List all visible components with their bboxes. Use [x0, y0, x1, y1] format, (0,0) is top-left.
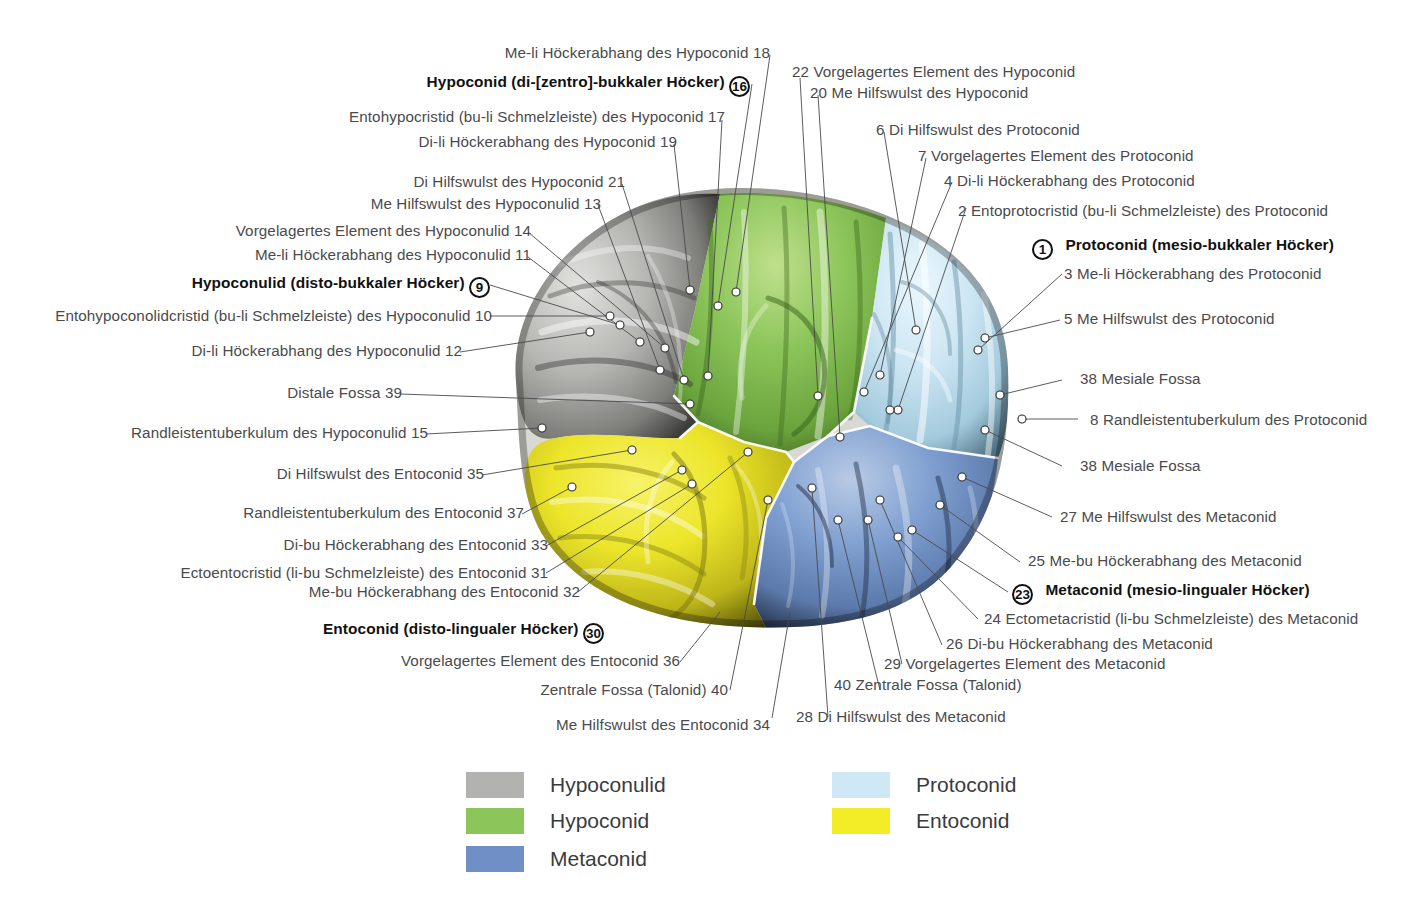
- label-37-text: Randleistentuberkulum des Entoconid: [243, 504, 502, 521]
- label-3: 3 Me-li Höckerabhang des Protoconid: [1064, 265, 1322, 282]
- label-25-num: 25: [1028, 552, 1045, 569]
- label-17-text: Entohypocristid (bu-li Schmelzleiste) de…: [349, 108, 704, 125]
- label-7-text: Vorgelagertes Element des Protoconid: [931, 147, 1194, 164]
- label-19-num: 19: [660, 133, 677, 150]
- label-22-text: Vorgelagertes Element des Hypoconid: [813, 63, 1075, 80]
- label-2-text: Entoprotocristid (bu-li Schmelzleiste) d…: [971, 202, 1328, 219]
- label-32-text: Me-bu Höckerabhang des Entoconid: [309, 583, 559, 600]
- legend-swatch-metaconid: [466, 846, 524, 872]
- legend: Hypoconulid Hypoconid Metaconid Protocon…: [466, 770, 1086, 880]
- label-26-text: Di-bu Höckerabhang des Metaconid: [967, 635, 1213, 652]
- label-38-a: 38 Mesiale Fossa: [1080, 370, 1201, 387]
- label-33: Di-bu Höckerabhang des Entoconid 33: [0, 536, 548, 553]
- label-22-num: 22: [792, 63, 809, 80]
- label-1: 1 Protoconid (mesio-bukkaler Höcker): [1032, 236, 1334, 260]
- tooth-occlusal-illustration: [498, 186, 1014, 634]
- label-40-left-text: Zentrale Fossa (Talonid): [540, 681, 706, 698]
- label-40-right-num: 40: [834, 676, 851, 693]
- label-28: 28 Di Hilfswulst des Metaconid: [796, 708, 1006, 725]
- label-24-num: 24: [984, 610, 1001, 627]
- label-31-text: Ectoentocristid (li-bu Schmelzleiste) de…: [180, 564, 526, 581]
- label-24: 24 Ectometacristid (li-bu Schmelzleiste)…: [984, 610, 1358, 627]
- label-2: 2 Entoprotocristid (bu-li Schmelzleiste)…: [958, 202, 1328, 219]
- label-15-num: 15: [411, 424, 428, 441]
- label-30-text: Entoconid (disto-lingualer Höcker): [323, 620, 579, 637]
- label-36-num: 36: [663, 652, 680, 669]
- legend-swatch-hypoconid: [466, 808, 524, 834]
- label-11-text: Me-li Höckerabhang des Hypoconulid: [255, 246, 511, 263]
- label-40-right: 40 Zentrale Fossa (Talonid): [834, 676, 1022, 693]
- label-29: 29 Vorgelagertes Element des Metaconid: [884, 655, 1166, 672]
- label-25-text: Me-bu Höckerabhang des Metaconid: [1049, 552, 1301, 569]
- label-10-num: 10: [475, 307, 492, 324]
- label-11: Me-li Höckerabhang des Hypoconulid 11: [0, 246, 531, 263]
- label-9-text: Hypoconulid (disto-bukkaler Höcker): [192, 274, 465, 291]
- label-21: Di Hilfswulst des Hypoconid 21: [0, 173, 625, 190]
- legend-swatch-hypoconulid: [466, 772, 524, 798]
- label-9-badge: 9: [469, 277, 490, 298]
- label-16-text: Hypoconid (di-[zentro]-bukkaler Höcker): [427, 73, 725, 90]
- label-3-text: Me-li Höckerabhang des Protoconid: [1077, 265, 1322, 282]
- label-40-left: Zentrale Fossa (Talonid) 40: [0, 681, 728, 698]
- label-38-b: 38 Mesiale Fossa: [1080, 457, 1201, 474]
- label-12-text: Di-li Höckerabhang des Hypoconulid: [192, 342, 441, 359]
- label-15-text: Randleistentuberkulum des Hypoconulid: [131, 424, 407, 441]
- label-35-text: Di Hilfswulst des Entoconid: [277, 465, 463, 482]
- label-7: 7 Vorgelagertes Element des Protoconid: [918, 147, 1194, 164]
- label-38-b-text: Mesiale Fossa: [1101, 457, 1200, 474]
- label-38-a-num: 38: [1080, 370, 1097, 387]
- label-17-num: 17: [708, 108, 725, 125]
- label-13: Me Hilfswulst des Hypoconulid 13: [0, 195, 601, 212]
- label-34: Me Hilfswulst des Entoconid 34: [0, 716, 770, 733]
- label-29-text: Vorgelagertes Element des Metaconid: [905, 655, 1165, 672]
- label-5: 5 Me Hilfswulst des Protoconid: [1064, 310, 1275, 327]
- label-13-text: Me Hilfswulst des Hypoconulid: [371, 195, 580, 212]
- label-40-right-text: Zentrale Fossa (Talonid): [855, 676, 1021, 693]
- label-15: Randleistentuberkulum des Hypoconulid 15: [0, 424, 428, 441]
- label-14: Vorgelagertes Element des Hypoconulid 14: [0, 222, 531, 239]
- label-40-left-num: 40: [711, 681, 728, 698]
- label-30-badge: 30: [583, 623, 604, 644]
- label-21-text: Di Hilfswulst des Hypoconid: [413, 173, 603, 190]
- label-17: Entohypocristid (bu-li Schmelzleiste) de…: [0, 108, 725, 125]
- label-32: Me-bu Höckerabhang des Entoconid 32: [0, 583, 580, 600]
- label-3-num: 3: [1064, 265, 1073, 282]
- label-7-num: 7: [918, 147, 927, 164]
- label-33-text: Di-bu Höckerabhang des Entoconid: [284, 536, 527, 553]
- label-26: 26 Di-bu Höckerabhang des Metaconid: [946, 635, 1213, 652]
- label-14-text: Vorgelagertes Element des Hypoconulid: [236, 222, 510, 239]
- figure-canvas: Me-li Höckerabhang des Hypoconid 18 Hypo…: [0, 0, 1419, 906]
- label-36: Vorgelagertes Element des Entoconid 36: [0, 652, 680, 669]
- legend-item-hypoconid: Hypoconid: [466, 808, 649, 834]
- label-31-num: 31: [531, 564, 548, 581]
- label-34-text: Me Hilfswulst des Entoconid: [556, 716, 749, 733]
- legend-label-hypoconulid: Hypoconulid: [550, 773, 666, 797]
- label-19: Di-li Höckerabhang des Hypoconid 19: [0, 133, 677, 150]
- label-2-num: 2: [958, 202, 967, 219]
- label-25: 25 Me-bu Höckerabhang des Metaconid: [1028, 552, 1302, 569]
- label-6: 6 Di Hilfswulst des Protoconid: [876, 121, 1080, 138]
- label-20-text: Me Hilfswulst des Hypoconid: [831, 84, 1028, 101]
- label-12-num: 12: [445, 342, 462, 359]
- label-6-num: 6: [876, 121, 885, 138]
- label-23: 23 Metaconid (mesio-lingualer Höcker): [1012, 581, 1310, 605]
- legend-swatch-protoconid: [832, 772, 890, 798]
- label-6-text: Di Hilfswulst des Protoconid: [889, 121, 1080, 138]
- label-23-text: Metaconid (mesio-lingualer Höcker): [1045, 581, 1309, 598]
- label-11-num: 11: [515, 246, 531, 263]
- label-18-text: Me-li Höckerabhang des Hypoconid: [505, 44, 749, 61]
- label-10: Entohypoconolidcristid (bu-li Schmelzlei…: [0, 307, 492, 324]
- label-32-num: 32: [563, 583, 580, 600]
- label-10-text: Entohypoconolidcristid (bu-li Schmelzlei…: [55, 307, 470, 324]
- legend-label-metaconid: Metaconid: [550, 847, 647, 871]
- label-4-num: 4: [944, 172, 953, 189]
- label-20-num: 20: [810, 84, 827, 101]
- label-8-num: 8: [1090, 411, 1099, 428]
- label-1-text: Protoconid (mesio-bukkaler Höcker): [1065, 236, 1334, 253]
- label-24-text: Ectometacristid (li-bu Schmelzleiste) de…: [1005, 610, 1358, 627]
- label-9: Hypoconulid (disto-bukkaler Höcker) 9: [0, 274, 490, 298]
- label-37-num: 37: [507, 504, 524, 521]
- label-8: 8 Randleistentuberkulum des Protoconid: [1090, 411, 1367, 428]
- label-8-text: Randleistentuberkulum des Protoconid: [1103, 411, 1367, 428]
- label-39-num: 39: [385, 384, 402, 401]
